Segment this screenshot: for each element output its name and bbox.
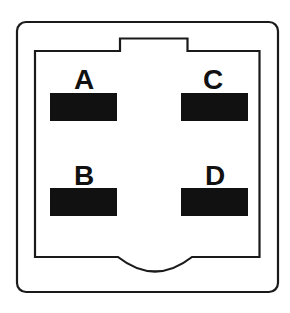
pin-pad-c bbox=[181, 93, 248, 121]
pin-label-a: A bbox=[74, 64, 94, 95]
pin-label-d: D bbox=[205, 160, 225, 191]
connector-diagram: A C B D bbox=[0, 0, 290, 313]
pin-a: A bbox=[50, 64, 117, 121]
connector-housing-outline bbox=[17, 22, 278, 292]
pin-c: C bbox=[181, 64, 248, 121]
pin-pad-a bbox=[50, 93, 117, 121]
connector-cavity-outline bbox=[35, 39, 260, 272]
pin-pad-b bbox=[50, 188, 117, 216]
pin-d: D bbox=[181, 160, 248, 216]
pin-pad-d bbox=[181, 188, 248, 216]
pin-label-b: B bbox=[74, 160, 94, 191]
pin-b: B bbox=[50, 160, 117, 216]
pin-label-c: C bbox=[203, 64, 223, 95]
